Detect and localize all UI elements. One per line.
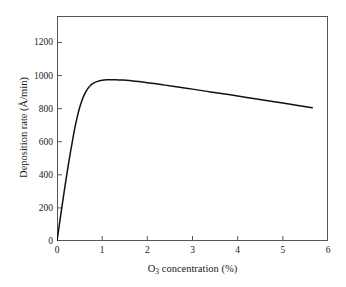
y-axis-title: Deposition rate (Å/min) bbox=[18, 43, 29, 213]
x-axis-title-rest: concentration (%) bbox=[159, 263, 237, 274]
x-tick-label-3: 3 bbox=[183, 245, 203, 255]
x-tick-label-5: 5 bbox=[273, 245, 293, 255]
figure-deposition-rate-vs-o3-concentration: 020040060080010001200 0123456 Deposition… bbox=[0, 0, 346, 287]
x-tick-label-6: 6 bbox=[318, 245, 338, 255]
x-tick-label-1: 1 bbox=[92, 245, 112, 255]
x-tick-label-0: 0 bbox=[47, 245, 67, 255]
x-tick-label-2: 2 bbox=[137, 245, 157, 255]
x-axis-tick-label-group: 0123456 bbox=[0, 0, 346, 287]
x-axis-title: O3 concentration (%) bbox=[57, 263, 328, 276]
x-tick-label-4: 4 bbox=[228, 245, 248, 255]
